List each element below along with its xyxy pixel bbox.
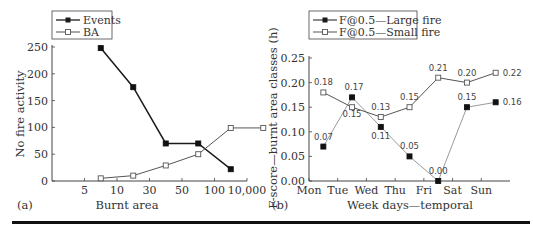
data-point bbox=[131, 85, 136, 90]
data-point bbox=[464, 105, 469, 110]
data-label: 0.18 bbox=[314, 77, 333, 87]
data-point bbox=[378, 124, 383, 129]
data-label: 0.15 bbox=[400, 92, 419, 102]
x-tick-label: 50 bbox=[175, 184, 189, 197]
data-point bbox=[407, 105, 412, 110]
x-tick-label: Thu bbox=[384, 184, 406, 197]
data-point bbox=[378, 115, 383, 120]
x-tick-label: Fri bbox=[416, 184, 433, 197]
chart-b-ylabel: F-score—burnt area classes (h) bbox=[266, 27, 280, 209]
chart-b-xlabel: Week days—temporal bbox=[347, 198, 473, 212]
series-line bbox=[101, 48, 231, 169]
data-point bbox=[321, 144, 326, 149]
data-point bbox=[131, 173, 136, 178]
data-label: 0.22 bbox=[503, 68, 522, 78]
chart-a-axes: 050100150200250510305010010,000 bbox=[27, 41, 266, 197]
data-point bbox=[261, 125, 266, 130]
data-label: 0.07 bbox=[314, 132, 333, 142]
chart-b: 0.000.050.100.150.200.25MonTueWedThuFriS… bbox=[266, 11, 522, 212]
data-label: 0.21 bbox=[429, 63, 448, 73]
data-point bbox=[196, 141, 201, 146]
x-tick-label: 5 bbox=[81, 184, 88, 197]
chart-b-tag: (b) bbox=[272, 198, 288, 212]
data-point bbox=[407, 154, 412, 159]
data-label: 0.15 bbox=[457, 92, 476, 102]
data-point bbox=[228, 125, 233, 130]
chart-a-xlabel: Burnt area bbox=[95, 198, 158, 212]
data-point bbox=[163, 141, 168, 146]
data-label: 0.15 bbox=[343, 109, 362, 119]
x-tick-label: 10 bbox=[110, 184, 124, 197]
y-tick-label: 0.15 bbox=[281, 101, 306, 114]
data-point bbox=[321, 90, 326, 95]
y-tick-label: 0.20 bbox=[281, 77, 306, 90]
legend-ba: BA bbox=[83, 26, 100, 39]
figure: 050100150200250510305010010,000 Events B… bbox=[0, 0, 533, 228]
y-tick-label: 0.10 bbox=[281, 126, 306, 139]
x-tick-label: Sat bbox=[443, 184, 462, 197]
data-label: 0.20 bbox=[457, 68, 476, 78]
data-point bbox=[493, 70, 498, 75]
chart-a-ylabel: No fire activity bbox=[13, 70, 27, 158]
x-tick-label: Sun bbox=[470, 184, 492, 197]
y-tick-label: 0 bbox=[41, 175, 48, 188]
y-tick-label: 200 bbox=[27, 68, 48, 81]
data-point bbox=[464, 80, 469, 85]
x-tick-label: Tue bbox=[327, 184, 348, 197]
x-tick-label: 100 bbox=[204, 184, 225, 197]
y-tick-label: 100 bbox=[27, 121, 48, 134]
data-point bbox=[196, 152, 201, 157]
x-tick-label: 30 bbox=[143, 184, 157, 197]
legend-small-fire: F@0.5—Small fire bbox=[339, 26, 440, 39]
data-label: 0.00 bbox=[429, 166, 448, 176]
data-point bbox=[436, 75, 441, 80]
chart-a: 050100150200250510305010010,000 Events B… bbox=[13, 11, 266, 212]
x-tick-label: Mon bbox=[297, 184, 322, 197]
data-point bbox=[98, 46, 103, 51]
data-point bbox=[493, 100, 498, 105]
data-point bbox=[228, 167, 233, 172]
y-tick-label: 250 bbox=[27, 41, 48, 54]
y-tick-label: 0.25 bbox=[281, 52, 306, 65]
data-point bbox=[436, 179, 441, 184]
series-line bbox=[101, 128, 264, 178]
data-label: 0.05 bbox=[400, 141, 419, 151]
x-tick-label: 10,000 bbox=[228, 184, 267, 197]
chart-a-legend: Events BA bbox=[52, 11, 121, 39]
chart-b-legend: F@0.5—Large fire F@0.5—Small fire bbox=[309, 11, 441, 39]
data-point bbox=[163, 163, 168, 168]
bottom-rule bbox=[12, 221, 530, 224]
data-label: 0.13 bbox=[371, 102, 390, 112]
data-point bbox=[98, 176, 103, 181]
y-tick-label: 0.05 bbox=[281, 150, 306, 163]
data-label: 0.11 bbox=[371, 131, 390, 141]
data-label: 0.16 bbox=[503, 97, 522, 107]
data-label: 0.17 bbox=[345, 82, 364, 92]
y-tick-label: 50 bbox=[34, 148, 48, 161]
chart-a-tag: (a) bbox=[17, 198, 33, 212]
x-tick-label: Wed bbox=[354, 184, 378, 197]
y-tick-label: 150 bbox=[27, 95, 48, 108]
data-point bbox=[350, 95, 355, 100]
chart-a-series bbox=[98, 46, 266, 181]
chart-b-series: 0.070.170.110.050.000.150.160.180.150.13… bbox=[314, 63, 522, 184]
